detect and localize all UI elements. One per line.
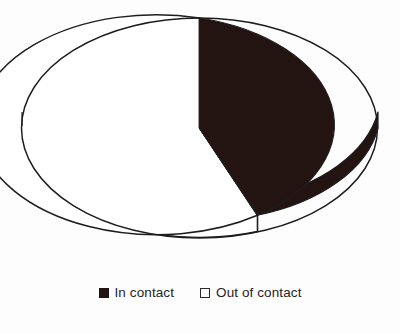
legend-swatch-hollow-square-icon (200, 288, 210, 298)
legend-item-in-contact[interactable]: In contact (99, 286, 175, 300)
pie-chart-canvas (0, 0, 400, 275)
legend-label-in-contact: In contact (115, 286, 175, 300)
legend-item-out-of-contact[interactable]: Out of contact (200, 286, 301, 300)
legend-swatch-filled-square-icon (99, 288, 109, 298)
pie-chart-figure: In contact Out of contact (0, 0, 400, 333)
legend-label-out-of-contact: Out of contact (216, 286, 301, 300)
chart-legend: In contact Out of contact (0, 286, 400, 300)
